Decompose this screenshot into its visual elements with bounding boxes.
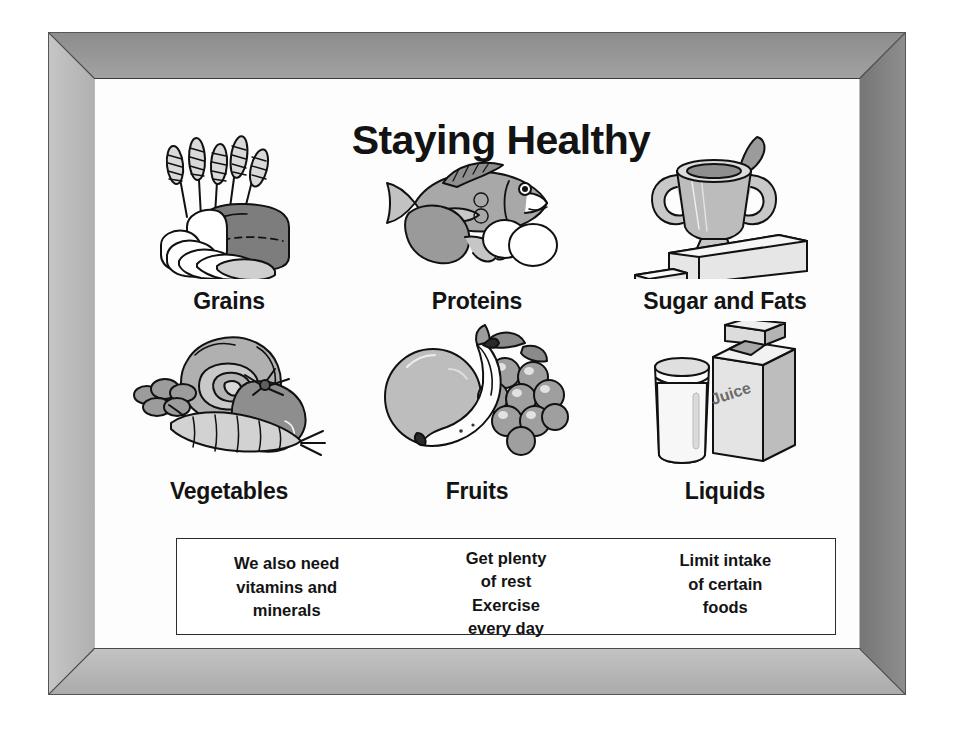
food-group-grid: Grains <box>105 123 849 503</box>
food-group-label: Proteins <box>353 288 601 315</box>
proteins-fish-meat-eggs-icon <box>353 131 601 279</box>
poster-root: Staying Healthy <box>0 0 960 738</box>
food-group-label: Vegetables <box>105 478 353 505</box>
advice-line: Exercise <box>472 594 540 617</box>
advice-line: We also need <box>234 552 339 575</box>
food-group-label: Sugar and Fats <box>601 288 849 315</box>
food-group-label: Grains <box>105 288 353 315</box>
advice-line: every day <box>468 617 544 640</box>
advice-line: Get plenty <box>466 547 547 570</box>
advice-line: of certain <box>688 573 762 596</box>
fruits-orange-banana-grapes-icon <box>353 321 601 469</box>
advice-line: vitamins and <box>236 576 337 599</box>
food-group-label: Fruits <box>353 478 601 505</box>
grains-bread-wheat-icon <box>105 131 353 279</box>
picture-frame: Staying Healthy <box>48 32 906 695</box>
advice-line: of rest <box>481 570 531 593</box>
food-group-proteins[interactable]: Proteins <box>353 131 601 321</box>
advice-column-limit: Limit intake of certain foods <box>616 539 835 634</box>
food-group-grains[interactable]: Grains <box>105 131 353 321</box>
sugar-bowl-butter-icon <box>601 131 849 279</box>
food-group-vegetables[interactable]: Vegetables <box>105 321 353 511</box>
poster-canvas: Staying Healthy <box>95 79 859 648</box>
liquids-milk-glass-juice-carton-icon: Juice <box>601 321 849 469</box>
advice-line: foods <box>703 596 748 619</box>
vegetables-lettuce-tomato-carrot-icon <box>105 321 353 469</box>
advice-line: Limit intake <box>679 549 771 572</box>
food-group-liquids[interactable]: Juice Liquids <box>601 321 849 511</box>
advice-box: We also need vitamins and minerals Get p… <box>176 538 836 635</box>
advice-column-vitamins: We also need vitamins and minerals <box>177 539 396 634</box>
food-group-sugar-and-fats[interactable]: Sugar and Fats <box>601 131 849 321</box>
advice-line: minerals <box>253 599 321 622</box>
food-group-label: Liquids <box>601 478 849 505</box>
food-group-fruits[interactable]: Fruits <box>353 321 601 511</box>
advice-column-rest-exercise: Get plenty of rest Exercise every day <box>396 539 615 634</box>
